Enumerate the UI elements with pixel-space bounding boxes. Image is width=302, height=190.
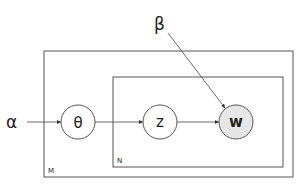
diagram-canvas: M N α β θ z w [0, 0, 302, 190]
beta-label: β [154, 14, 165, 34]
node-z-label: z [156, 113, 164, 131]
lda-diagram: M N α β θ z w [0, 0, 302, 190]
plate-m-label: M [48, 167, 54, 175]
alpha-label: α [6, 112, 17, 132]
plate-n-label: N [117, 157, 122, 165]
edge-beta-w [168, 33, 225, 108]
node-theta-label: θ [73, 114, 82, 132]
node-w-label: w [229, 113, 243, 131]
